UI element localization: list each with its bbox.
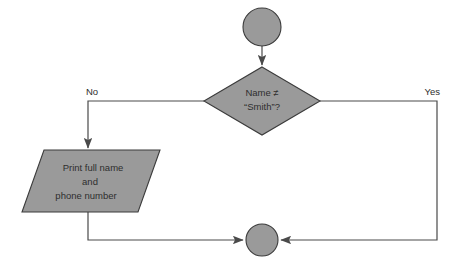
decision-label-line2: “Smith”?: [244, 101, 280, 112]
decision-label-line1: Name ≠: [245, 87, 278, 98]
output-label-line1: Print full name: [63, 162, 124, 173]
node-end-connector[interactable]: [246, 224, 278, 256]
edge-decision-yes-to-end: [281, 101, 437, 240]
output-label-line2: and: [82, 176, 98, 187]
node-output-print[interactable]: Print full name and phone number: [22, 150, 160, 212]
edge-label-yes: Yes: [425, 86, 441, 97]
output-label-line3: phone number: [55, 190, 116, 201]
flowchart-canvas: Name ≠ “Smith”? Print full name and phon…: [0, 0, 451, 272]
flowchart-svg: Name ≠ “Smith”? Print full name and phon…: [0, 0, 451, 272]
node-decision[interactable]: Name ≠ “Smith”?: [204, 67, 320, 135]
edge-output-to-end: [88, 212, 243, 240]
edge-label-no: No: [86, 86, 98, 97]
edge-decision-no-to-output: [88, 101, 204, 148]
node-start-connector[interactable]: [243, 8, 281, 46]
